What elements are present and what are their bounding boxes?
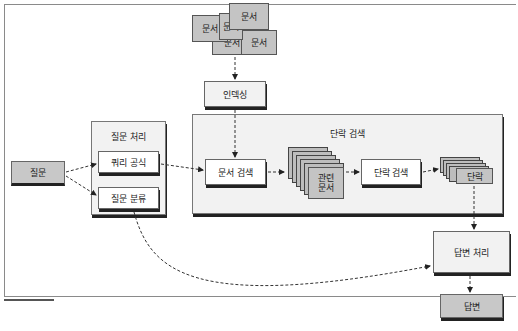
- passage-search-box: 단락 검색: [361, 159, 421, 185]
- question-processing-title: 질문 처리: [92, 130, 165, 143]
- passages-card: 단락: [456, 168, 493, 184]
- related-docs-label-1: 관련: [318, 173, 334, 183]
- related-documents-card: 관련 문서: [308, 167, 344, 199]
- query-formulation-box: 쿼리 공식: [98, 151, 159, 173]
- answer-box: 답변: [440, 294, 503, 318]
- related-docs-label-2: 문서: [318, 183, 334, 193]
- document-retrieval-box: 문서 검색: [205, 159, 266, 185]
- answer-processing-box: 답변 처리: [433, 231, 510, 273]
- document-card: 문서: [241, 30, 277, 55]
- passage-retrieval-title: 단락 검색: [193, 127, 502, 140]
- question-classification-box: 질문 분류: [98, 187, 159, 209]
- question-box: 질문: [11, 161, 65, 186]
- indexing-box: 인덱싱: [204, 81, 266, 107]
- frame-underline: [4, 299, 54, 301]
- document-card: 문서: [229, 3, 269, 30]
